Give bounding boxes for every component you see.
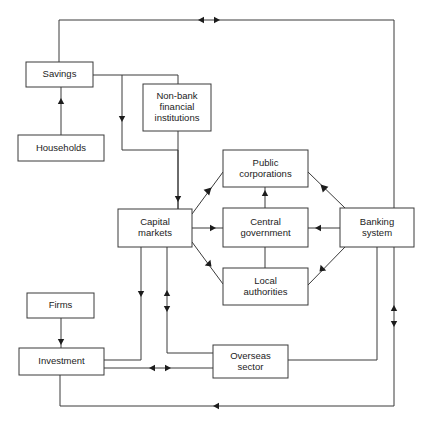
arrow-head-icon (58, 339, 64, 345)
arrow-head-icon (391, 321, 397, 327)
node-capital_markets[interactable]: Capitalmarkets (118, 209, 192, 247)
arrow-head-icon (164, 306, 170, 312)
arrow-head-icon (58, 98, 64, 104)
edge-capital-to-overseas (167, 247, 213, 353)
node-central_gov[interactable]: Centralgovernment (223, 208, 308, 247)
node-label-local_authorities: Local (254, 275, 277, 286)
node-label-firms: Firms (49, 299, 73, 310)
arrow-head-icon (164, 290, 170, 296)
edge-banking-to-local-auth (308, 247, 345, 285)
arrow-head-icon (262, 190, 268, 196)
edge-public-corps-to-banking (308, 172, 345, 208)
arrow-head-icon (320, 265, 327, 272)
arrow-head-icon (175, 196, 181, 202)
node-label-nonbank: financial (160, 101, 195, 112)
node-firms[interactable]: Firms (27, 293, 94, 318)
arrow-head-icon (138, 291, 144, 297)
node-label-central_gov: Central (250, 216, 281, 227)
flow-diagram-canvas: SavingsHouseholdsNon-bankfinancialinstit… (0, 0, 426, 424)
flow-diagram-svg: SavingsHouseholdsNon-bankfinancialinstit… (0, 0, 426, 424)
arrow-head-icon (204, 188, 212, 196)
node-label-overseas: Overseas (230, 350, 271, 361)
node-overseas[interactable]: Overseassector (213, 345, 288, 378)
arrow-head-icon (210, 225, 216, 231)
node-label-local_authorities: authorities (244, 286, 288, 297)
edge-capital-to-investment (104, 247, 141, 360)
nodes-layer: SavingsHouseholdsNon-bankfinancialinstit… (18, 62, 414, 378)
node-label-nonbank: institutions (155, 112, 200, 123)
node-investment[interactable]: Investment (19, 348, 104, 375)
arrow-head-icon (213, 403, 219, 409)
node-label-overseas: sector (238, 361, 264, 372)
arrow-head-icon (315, 225, 321, 231)
arrow-head-icon (165, 365, 171, 371)
node-local_authorities[interactable]: Localauthorities (223, 268, 308, 305)
node-label-savings: Savings (43, 68, 77, 79)
node-label-central_gov: government (240, 227, 291, 238)
node-public_corps[interactable]: Publiccorporations (223, 150, 308, 187)
node-banking_system[interactable]: Bankingsystem (340, 208, 414, 247)
edge-savings-to-nonbank (93, 75, 178, 84)
arrow-head-icon (119, 116, 125, 122)
node-label-investment: Investment (38, 355, 85, 366)
arrow-head-icon (391, 305, 397, 311)
node-label-public_corps: Public (253, 157, 279, 168)
node-label-capital_markets: markets (138, 227, 172, 238)
arrow-head-icon (198, 17, 204, 23)
node-savings[interactable]: Savings (26, 62, 93, 87)
arrow-head-icon (214, 17, 220, 23)
node-label-banking_system: system (362, 227, 392, 238)
node-label-public_corps: corporations (239, 168, 292, 179)
node-nonbank[interactable]: Non-bankfinancialinstitutions (143, 84, 211, 131)
node-label-nonbank: Non-bank (156, 90, 197, 101)
node-label-households: Households (36, 142, 86, 153)
node-households[interactable]: Households (18, 135, 104, 161)
arrow-head-icon (149, 365, 155, 371)
node-label-capital_markets: Capital (140, 216, 170, 227)
node-label-banking_system: Banking (360, 216, 394, 227)
